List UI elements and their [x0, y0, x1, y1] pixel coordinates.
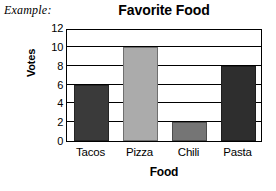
bar-chili — [172, 122, 207, 141]
chart-title: Favorite Food — [66, 2, 262, 18]
x-tick-label-tacos: Tacos — [66, 145, 115, 159]
y-tick-label: 2 — [43, 117, 63, 128]
y-tick-label: 10 — [43, 42, 63, 53]
y-axis-label: Votes — [25, 63, 37, 77]
y-tick-label: 0 — [43, 136, 63, 147]
y-tick-label: 8 — [43, 61, 63, 72]
x-tick-label-pizza: Pizza — [115, 145, 164, 159]
y-tick-label: 6 — [43, 80, 63, 91]
y-axis-ticks: 024681012 — [40, 29, 63, 142]
x-axis-label: Food — [66, 165, 262, 179]
bar-pizza — [123, 47, 158, 141]
x-tick-label-chili: Chili — [164, 145, 213, 159]
bar-tacos — [74, 85, 109, 142]
gridline — [67, 46, 261, 47]
bar-pasta — [221, 66, 256, 141]
chart-plot-area — [66, 29, 262, 142]
x-axis-ticks: TacosPizzaChiliPasta — [66, 145, 262, 161]
x-tick-label-pasta: Pasta — [213, 145, 262, 159]
y-tick-label: 4 — [43, 98, 63, 109]
example-label: Example: — [4, 3, 52, 18]
y-tick-label: 12 — [43, 23, 63, 34]
